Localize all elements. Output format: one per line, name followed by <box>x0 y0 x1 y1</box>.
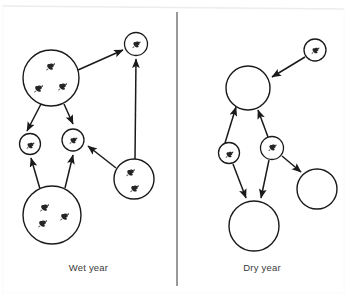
patch-circle[interactable] <box>23 50 79 106</box>
node-dry-small-mid-left[interactable] <box>219 143 240 164</box>
diagram-canvas <box>0 0 347 301</box>
node-wet-small-mid-center[interactable] <box>62 129 84 151</box>
patch-circle[interactable] <box>114 159 154 199</box>
patch-circle[interactable] <box>226 66 270 110</box>
node-dry-small-top-right[interactable] <box>304 39 326 61</box>
node-wet-small-mid-left[interactable] <box>20 134 41 155</box>
node-wet-large-top-left[interactable] <box>23 50 79 106</box>
panel-caption-wet: Wet year <box>0 262 177 273</box>
node-wet-medium-mid-right[interactable] <box>114 159 154 199</box>
patch-circle[interactable] <box>297 169 337 209</box>
node-dry-large-top[interactable] <box>226 66 270 110</box>
node-wet-small-top-right[interactable] <box>125 33 148 56</box>
node-dry-small-mid-center[interactable] <box>261 137 284 160</box>
patch-circle[interactable] <box>23 186 81 244</box>
panel-caption-dry: Dry year <box>177 262 347 273</box>
figure-root: Wet year Dry year <box>0 0 347 301</box>
patch-circle[interactable] <box>229 201 279 251</box>
edge-wet-medium-mid-right-to-wet-small-top-right <box>135 59 136 159</box>
node-dry-medium-right[interactable] <box>297 169 337 209</box>
node-dry-large-bottom[interactable] <box>229 201 279 251</box>
figure-background <box>1 1 347 301</box>
node-wet-large-bottom-left[interactable] <box>23 186 81 244</box>
